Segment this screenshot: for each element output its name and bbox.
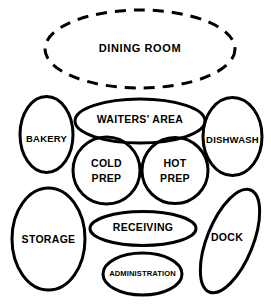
receiving-label: RECEIVING (113, 221, 173, 233)
cold-prep-outline (73, 137, 140, 204)
bakery-label: BAKERY (26, 133, 67, 144)
bubble-administration[interactable]: ADMINISTRATION (103, 253, 182, 295)
hot-prep-label-line2: PREP (160, 172, 190, 184)
dishwash-label: DISHWASH (206, 134, 259, 145)
bubble-storage[interactable]: STORAGE (12, 188, 85, 290)
bubble-dock[interactable]: DOCK (188, 181, 271, 300)
storage-label: STORAGE (22, 233, 76, 245)
bubble-receiving[interactable]: RECEIVING (90, 212, 196, 246)
cold-prep-label-line1: COLD (91, 157, 122, 169)
waiters-area-label: WAITERS' AREA (97, 113, 184, 125)
hot-prep-label-line1: HOT (163, 157, 186, 169)
bubble-diagram: DINING ROOM STORAGE BAKERY DISHWASH DOCK… (0, 0, 271, 306)
bubble-bakery[interactable]: BAKERY (20, 97, 73, 173)
bubble-diagram-canvas: DINING ROOM STORAGE BAKERY DISHWASH DOCK… (0, 0, 271, 306)
dock-label: DOCK (211, 231, 243, 243)
bubble-cold-prep[interactable]: COLD PREP (73, 137, 140, 204)
hot-prep-outline (142, 138, 208, 204)
administration-label: ADMINISTRATION (109, 269, 176, 278)
bubble-dishwash[interactable]: DISHWASH (203, 98, 262, 176)
bubble-waiters-area[interactable]: WAITERS' AREA (75, 99, 205, 143)
cold-prep-label-line2: PREP (92, 172, 122, 184)
dining-room-label: DINING ROOM (99, 42, 181, 54)
bubble-dining-room[interactable]: DINING ROOM (45, 10, 235, 88)
bubble-hot-prep[interactable]: HOT PREP (142, 138, 208, 204)
